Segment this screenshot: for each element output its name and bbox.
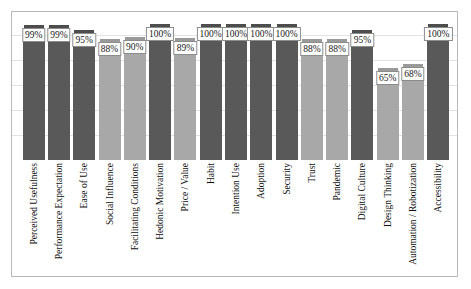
bar[interactable] bbox=[351, 41, 373, 160]
category-label: Performance Expectation bbox=[54, 163, 64, 259]
bar[interactable] bbox=[427, 35, 449, 160]
bar[interactable] bbox=[99, 50, 121, 160]
category-label-slot: Design Thinking bbox=[377, 163, 399, 283]
bar-value-label: 95% bbox=[351, 33, 374, 47]
category-label-slot: Price / Value bbox=[174, 163, 196, 283]
bar-slot[interactable]: 100% bbox=[276, 35, 298, 160]
bar-value-label: 88% bbox=[300, 42, 323, 56]
bar-slot[interactable]: 88% bbox=[326, 35, 348, 160]
bar-value-label: 95% bbox=[73, 33, 96, 47]
bar-value-label: 90% bbox=[123, 40, 146, 54]
category-label: Facilitating Conditions bbox=[130, 163, 140, 250]
category-label: Accessibility bbox=[433, 163, 443, 213]
bar[interactable] bbox=[402, 75, 424, 160]
bar-value-label: 100% bbox=[222, 27, 250, 41]
bar-value-label: 68% bbox=[401, 67, 424, 81]
bar-value-label: 65% bbox=[376, 71, 399, 85]
category-label: Intention Use bbox=[231, 163, 241, 214]
bar-value-label: 99% bbox=[47, 28, 70, 42]
bar[interactable] bbox=[124, 48, 146, 161]
bar-slot[interactable]: 95% bbox=[73, 35, 95, 160]
bar-value-label: 100% bbox=[272, 27, 300, 41]
category-label-slot: Habit bbox=[200, 163, 222, 283]
bar[interactable] bbox=[23, 36, 45, 160]
category-label: Trust bbox=[307, 163, 317, 183]
category-label-slot: Automation / Robotization bbox=[402, 163, 424, 283]
chart-figure: 99%99%95%88%90%100%89%100%100%100%100%88… bbox=[0, 0, 471, 289]
category-label-slot: Accessibility bbox=[427, 163, 449, 283]
bar-slot[interactable]: 95% bbox=[351, 35, 373, 160]
category-label: Digital Culture bbox=[357, 163, 367, 220]
bar[interactable] bbox=[48, 36, 70, 160]
bar[interactable] bbox=[73, 41, 95, 160]
bars-container: 99%99%95%88%90%100%89%100%100%100%100%88… bbox=[21, 35, 451, 160]
bar-slot[interactable]: 99% bbox=[48, 35, 70, 160]
category-label-slot: Pandemic bbox=[326, 163, 348, 283]
category-label-slot: Security bbox=[276, 163, 298, 283]
bar[interactable] bbox=[225, 35, 247, 160]
category-label: Adoption bbox=[256, 163, 266, 199]
bar-slot[interactable]: 99% bbox=[23, 35, 45, 160]
category-label-slot: Trust bbox=[301, 163, 323, 283]
bar-value-label: 88% bbox=[325, 42, 348, 56]
category-label-slot: Perceived Usefulness bbox=[23, 163, 45, 283]
bar[interactable] bbox=[149, 35, 171, 160]
category-label: Security bbox=[282, 163, 292, 195]
category-label-slot: Social Influence bbox=[99, 163, 121, 283]
bar-slot[interactable]: 100% bbox=[149, 35, 171, 160]
category-label: Social Influence bbox=[105, 163, 115, 225]
bar[interactable] bbox=[200, 35, 222, 160]
bar-slot[interactable]: 100% bbox=[427, 35, 449, 160]
category-label-slot: Facilitating Conditions bbox=[124, 163, 146, 283]
category-labels-container: Perceived UsefulnessPerformance Expectat… bbox=[21, 163, 451, 283]
bar-value-label: 99% bbox=[22, 28, 45, 42]
bar[interactable] bbox=[301, 50, 323, 160]
bar-value-label: 88% bbox=[98, 42, 121, 56]
bar-slot[interactable]: 68% bbox=[402, 35, 424, 160]
bar-value-label: 100% bbox=[197, 27, 225, 41]
category-label: Price / Value bbox=[180, 163, 190, 211]
bar[interactable] bbox=[377, 79, 399, 160]
bar[interactable] bbox=[174, 49, 196, 160]
bar[interactable] bbox=[250, 35, 272, 160]
category-label: Pandemic bbox=[332, 163, 342, 200]
category-label-slot: Adoption bbox=[250, 163, 272, 283]
category-label: Habit bbox=[206, 163, 216, 184]
bar-value-label: 89% bbox=[174, 41, 197, 55]
bar-slot[interactable]: 65% bbox=[377, 35, 399, 160]
category-label-slot: Ease of Use bbox=[73, 163, 95, 283]
category-label: Ease of Use bbox=[79, 163, 89, 208]
bar[interactable] bbox=[326, 50, 348, 160]
category-label-slot: Performance Expectation bbox=[48, 163, 70, 283]
category-label: Design Thinking bbox=[383, 163, 393, 227]
category-label: Perceived Usefulness bbox=[29, 163, 39, 245]
category-label-slot: Intention Use bbox=[225, 163, 247, 283]
bar-value-label: 100% bbox=[247, 27, 275, 41]
bar-slot[interactable]: 88% bbox=[301, 35, 323, 160]
bar[interactable] bbox=[276, 35, 298, 160]
bar-value-label: 100% bbox=[146, 27, 174, 41]
bar-slot[interactable]: 89% bbox=[174, 35, 196, 160]
plot-area-frame: 99%99%95%88%90%100%89%100%100%100%100%88… bbox=[11, 11, 458, 277]
bar-value-label: 100% bbox=[424, 27, 452, 41]
category-label-slot: Digital Culture bbox=[351, 163, 373, 283]
bar-slot[interactable]: 90% bbox=[124, 35, 146, 160]
bar-slot[interactable]: 100% bbox=[250, 35, 272, 160]
bar-slot[interactable]: 100% bbox=[200, 35, 222, 160]
category-label: Hedonic Motivation bbox=[155, 163, 165, 240]
bar-slot[interactable]: 100% bbox=[225, 35, 247, 160]
category-label-slot: Hedonic Motivation bbox=[149, 163, 171, 283]
bar-slot[interactable]: 88% bbox=[99, 35, 121, 160]
category-label: Automation / Robotization bbox=[408, 163, 418, 265]
